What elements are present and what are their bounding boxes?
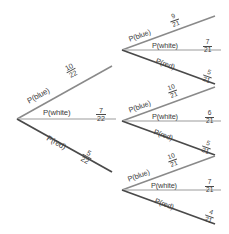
branch-prob-l1-white: 7 22 — [96, 106, 106, 123]
branch-prob-c-white: 7 21 — [205, 178, 214, 194]
probability-tree-diagram: P(blue) 10 22 P(white) 7 22 P(red) 5 22 … — [0, 0, 229, 234]
branch-prob-a-white: 7 21 — [203, 38, 212, 54]
fraction: 7 21 — [203, 39, 212, 54]
branch-label-b-white: P(white) — [152, 113, 178, 120]
branch-prob-b-white: 6 21 — [205, 109, 214, 125]
branch-label-l1-white: P(white) — [43, 109, 70, 117]
fraction: 7 22 — [96, 107, 106, 123]
tree-branches-svg — [0, 0, 229, 234]
branch-label-a-white: P(white) — [152, 42, 178, 49]
fraction: 7 21 — [205, 179, 214, 194]
branch-label-c-white: P(white) — [151, 182, 177, 189]
fraction: 6 21 — [205, 110, 214, 125]
